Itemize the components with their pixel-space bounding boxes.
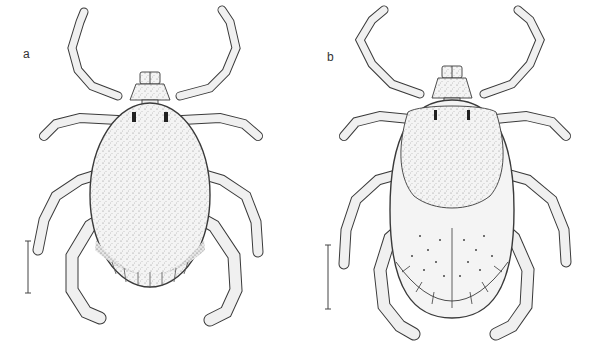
- tick-a: [38, 10, 258, 320]
- scale-bar-b: [325, 245, 331, 309]
- scale-bar-a: [25, 241, 31, 293]
- tick-b: [344, 10, 566, 334]
- tick-a-capitulum: [130, 72, 170, 106]
- figure-illustration: [0, 0, 612, 351]
- tick-b-capitulum: [432, 66, 472, 104]
- tick-b-scutum: [401, 106, 503, 208]
